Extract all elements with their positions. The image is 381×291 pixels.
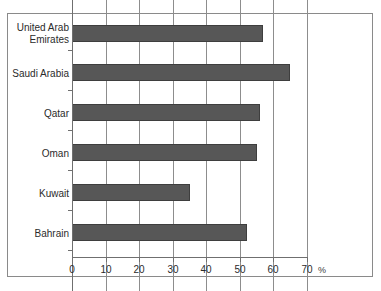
x-tick-20 [139, 257, 140, 262]
x-tick-label-40: 40 [194, 264, 218, 275]
y-tick-4 [68, 170, 72, 171]
x-tick-label-0: 0 [60, 264, 84, 275]
y-tick-6 [68, 250, 72, 251]
x-tick-label-50: 50 [228, 264, 252, 275]
x-tick-70 [307, 257, 308, 262]
x-tick-label-30: 30 [161, 264, 185, 275]
gridline-70 [307, 0, 308, 291]
x-tick-0 [72, 257, 73, 262]
bar-united-arab-emirates [72, 25, 263, 42]
category-label-oman: Oman [0, 148, 69, 160]
bar-chart-figure: United Arab Emirates Saudi Arabia Qatar … [0, 0, 381, 291]
x-tick-50 [240, 257, 241, 262]
category-label-united-arab-emirates: United Arab Emirates [0, 22, 69, 46]
bar-qatar [72, 104, 260, 121]
y-tick-3 [68, 130, 72, 131]
bar-oman [72, 144, 257, 161]
x-tick-60 [273, 257, 274, 262]
bar-kuwait [72, 184, 190, 201]
x-tick-label-20: 20 [127, 264, 151, 275]
x-axis-unit-label: % [318, 265, 326, 275]
y-tick-2 [68, 90, 72, 91]
bar-bahrain [72, 224, 247, 241]
category-label-qatar: Qatar [0, 108, 69, 120]
y-tick-1 [68, 50, 72, 51]
category-label-bahrain: Bahrain [0, 228, 69, 240]
x-tick-label-10: 10 [94, 264, 118, 275]
x-tick-30 [173, 257, 174, 262]
x-tick-label-60: 60 [261, 264, 285, 275]
x-tick-10 [106, 257, 107, 262]
y-axis-line [72, 18, 73, 257]
x-tick-label-70: 70 [295, 264, 319, 275]
y-tick-5 [68, 210, 72, 211]
plot-area [72, 18, 307, 257]
category-label-kuwait: Kuwait [0, 188, 69, 200]
bar-saudi-arabia [72, 64, 290, 81]
x-tick-40 [206, 257, 207, 262]
category-label-saudi-arabia: Saudi Arabia [0, 68, 69, 80]
